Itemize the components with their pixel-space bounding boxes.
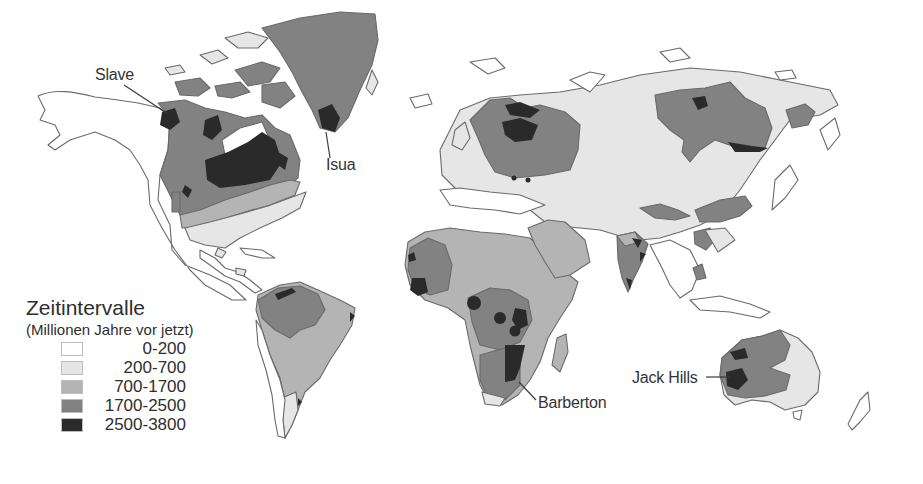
legend-label: 0-200 [143,339,186,358]
legend-label: 200-700 [124,358,186,377]
legend-label: 2500-3800 [105,415,186,434]
india [617,232,648,292]
legend-subtitle: (Millionen Jahre vor jetzt) [26,321,236,339]
new-zealand [848,392,870,430]
legend-item: 200-700 [6,358,236,377]
label-barberton: Barberton [538,394,606,412]
iceland [410,94,432,108]
swatch-0-200 [61,342,83,356]
label-isua: Isua [326,156,355,174]
greenland [262,12,378,132]
legend-title: Zeitintervalle [26,296,236,320]
legend-item: 700-1700 [6,377,236,396]
south-america [256,282,355,438]
legend-label: 1700-2500 [105,396,186,415]
australia [720,330,820,420]
eurasia [440,48,840,252]
indonesia [690,296,770,318]
legend-item: 2500-3800 [6,415,236,434]
swatch-700-1700 [61,380,83,394]
swatch-2500-3800 [61,418,83,432]
label-slave: Slave [95,66,134,84]
southeast-asia [650,240,700,298]
legend-label: 700-1700 [114,377,186,396]
legend-item: 1700-2500 [6,396,236,415]
africa [405,220,590,406]
legend: Zeitintervalle (Millionen Jahre vor jetz… [6,296,236,434]
swatch-1700-2500 [61,399,83,413]
swatch-200-700 [61,361,83,375]
legend-item: 0-200 [6,339,236,358]
north-america [38,32,306,300]
label-jack-hills: Jack Hills [632,369,698,387]
